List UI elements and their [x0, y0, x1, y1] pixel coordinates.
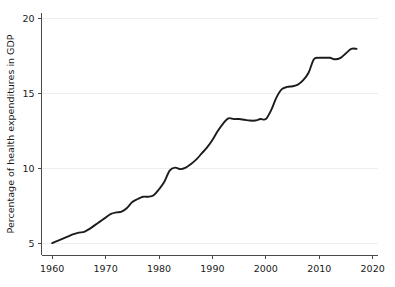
y-tick-label-5: 5: [28, 238, 34, 249]
x-axis: 1960197019801990200020102020: [40, 255, 385, 274]
x-tick-label-2020: 2020: [361, 263, 385, 274]
chart-canvas: 5101520 1960197019801990200020102020 Per…: [0, 0, 395, 287]
x-tick-group: 1960197019801990200020102020: [40, 255, 385, 274]
x-tick-label-1970: 1970: [94, 263, 118, 274]
x-tick-label-2010: 2010: [307, 263, 331, 274]
x-tick-label-2000: 2000: [254, 263, 278, 274]
health-expenditure-line-chart: 5101520 1960197019801990200020102020 Per…: [0, 0, 395, 287]
y-tick-label-20: 20: [22, 13, 34, 24]
y-tick-group: 5101520: [22, 13, 41, 248]
x-tick-label-1990: 1990: [200, 263, 224, 274]
x-tick-label-1960: 1960: [40, 263, 64, 274]
x-tick-label-1980: 1980: [147, 263, 171, 274]
series-line-health-expenditure: [52, 49, 356, 244]
gridlines: [42, 19, 379, 243]
y-axis-title: Percentage of health expenditures in GDP: [5, 34, 16, 233]
y-tick-label-15: 15: [22, 88, 34, 99]
y-tick-label-10: 10: [22, 163, 34, 174]
y-axis: 5101520: [22, 13, 41, 255]
